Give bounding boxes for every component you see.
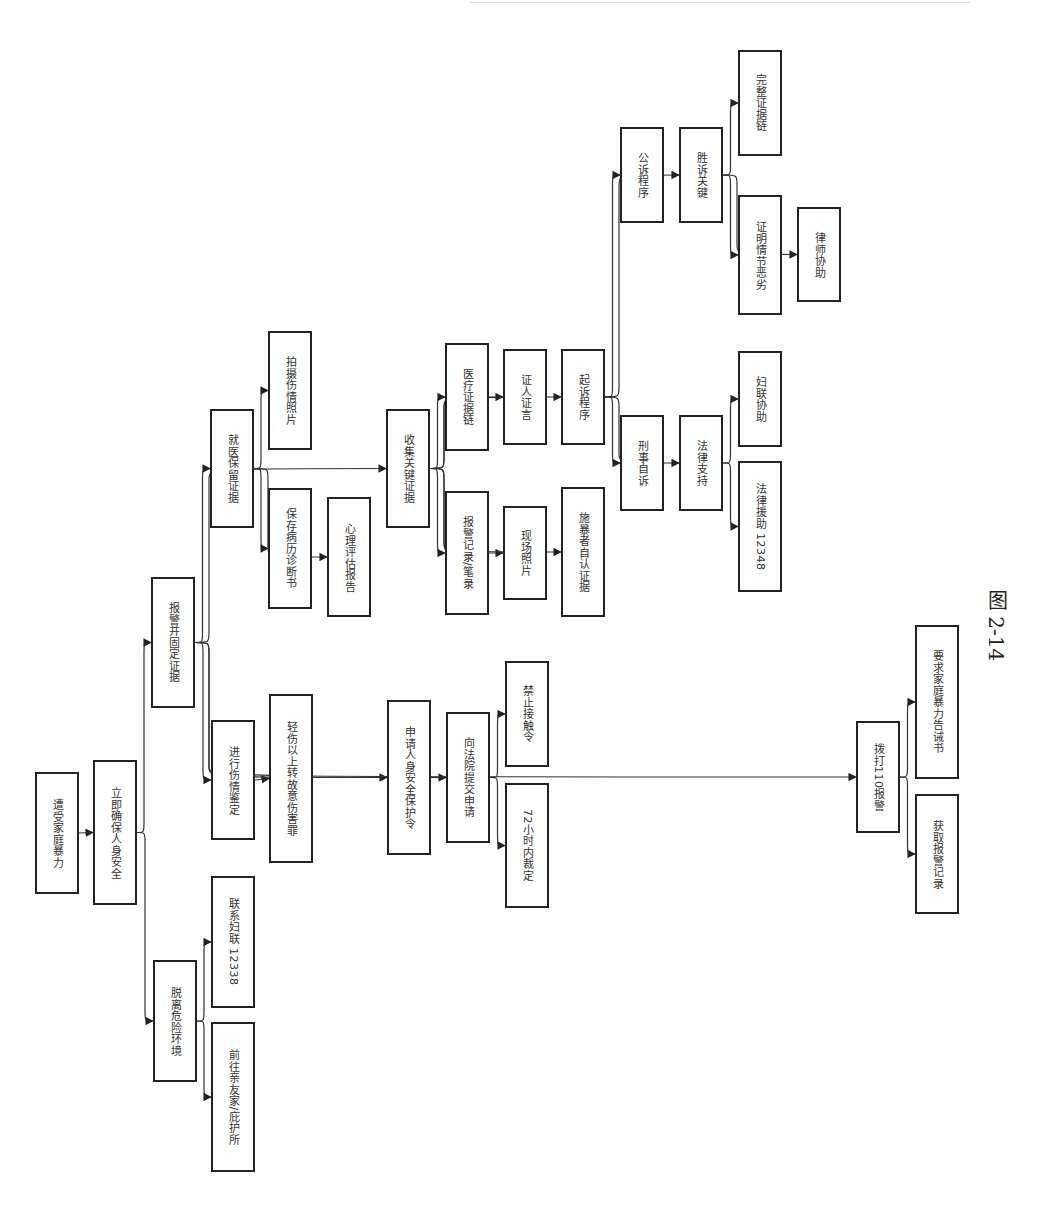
node-label: 拍摄伤情照片 <box>282 356 298 425</box>
node-label: 完整证据链 <box>752 74 768 132</box>
connector-arrow <box>490 714 505 778</box>
node-label: 心理评估报告 <box>341 523 357 592</box>
node-label: 前往亲友家/庇护所 <box>225 1049 241 1145</box>
flow-node: 律师协助 <box>797 207 841 302</box>
connector-arrow <box>723 103 738 175</box>
node-label: 施暴者自认证据 <box>575 512 591 593</box>
node-label: 申请人身安全保护令 <box>401 726 417 830</box>
connector-arrow <box>197 942 211 1021</box>
connector-arrow <box>430 469 445 554</box>
connector-arrow <box>255 779 269 781</box>
node-label: 拨打110报警 <box>870 743 886 812</box>
flow-node: 遭受家庭暴力 <box>35 772 79 894</box>
flow-node: 公诉程序 <box>620 127 664 223</box>
node-label: 收集关键证据 <box>400 434 416 503</box>
node-label: 胜诉关键 <box>693 152 709 198</box>
connector-arrow <box>605 397 620 463</box>
figure-caption: 图 2-14 <box>982 590 1011 661</box>
flow-node: 妇联协助 <box>738 351 782 447</box>
node-label: 立即确保人身安全 <box>107 787 123 879</box>
flow-node: 立即确保人身安全 <box>93 760 137 905</box>
node-label: 法律援助 12348 <box>752 483 768 571</box>
connector-arrow <box>723 175 738 255</box>
flow-node: 就医保留证据 <box>210 409 254 528</box>
flow-node: 收集关键证据 <box>386 409 430 528</box>
node-label: 遭受家庭暴力 <box>49 799 65 868</box>
node-label: 获取报警记录 <box>929 820 945 889</box>
flow-node: 完整证据链 <box>738 50 782 156</box>
flow-node: 轻伤以上转故意伤害罪 <box>269 694 313 863</box>
flow-node: 胜诉关键 <box>679 127 723 223</box>
connector-arrow <box>79 833 93 834</box>
connector-arrow <box>490 778 505 846</box>
node-label: 保存病历诊断书 <box>282 508 298 589</box>
node-label: 脱离危险环境 <box>167 987 183 1056</box>
node-label: 报警并固定证据 <box>165 602 181 683</box>
node-label: 证明情节恶劣 <box>752 221 768 290</box>
connector-arrow <box>254 391 268 469</box>
flow-node: 心理评估报告 <box>327 497 371 617</box>
flow-node: 刑事自诉 <box>620 415 664 511</box>
node-label: 法律支持 <box>693 440 709 486</box>
flow-node: 保存病历诊断书 <box>268 488 312 609</box>
flow-node: 获取报警记录 <box>915 794 959 914</box>
node-label: 起诉程序 <box>575 374 591 420</box>
flow-node: 联系妇联 12338 <box>211 876 255 1008</box>
flow-node: 前往亲友家/庇护所 <box>211 1022 255 1172</box>
flow-node: 向法院提交申请 <box>446 712 490 843</box>
flow-node: 脱离危险环境 <box>153 960 197 1082</box>
connector-arrow <box>900 702 915 777</box>
node-label: 医疗证据链 <box>459 368 475 426</box>
node-label: 报警记录/笔录 <box>459 516 475 589</box>
flow-node: 施暴者自认证据 <box>561 487 605 617</box>
node-label: 联系妇联 12338 <box>225 898 241 986</box>
flow-node: 证明情节恶劣 <box>738 195 782 315</box>
flow-node: 报警记录/笔录 <box>445 491 489 615</box>
flow-node: 起诉程序 <box>561 349 605 445</box>
flow-node: 证人证言 <box>503 349 547 445</box>
connector-arrow <box>137 833 153 1022</box>
node-label: 刑事自诉 <box>634 440 650 486</box>
flow-node: 进行伤情鉴定 <box>211 720 255 840</box>
flow-node: 医疗证据链 <box>445 343 489 451</box>
node-label: 要求家庭暴力告诫书 <box>929 650 945 754</box>
node-label: 就医保留证据 <box>224 434 240 503</box>
node-label: 现场照片 <box>517 530 533 576</box>
connector-arrow <box>723 463 738 527</box>
connector-arrow <box>723 399 738 463</box>
flow-node: 报警并固定证据 <box>151 577 195 708</box>
node-label: 向法院提交申请 <box>460 737 476 818</box>
connector-arrow <box>254 469 268 549</box>
node-label: 轻伤以上转故意伤害罪 <box>283 721 299 836</box>
flow-node: 法律支持 <box>679 415 723 511</box>
connector-arrow <box>195 469 210 643</box>
connector-arrow <box>430 397 445 469</box>
edge-group <box>79 103 915 1097</box>
node-label: 禁止接触令 <box>519 685 535 743</box>
node-label: 妇联协助 <box>752 376 768 422</box>
flow-node: 拨打110报警 <box>856 721 900 833</box>
connector-arrow <box>197 1021 211 1097</box>
connector-arrow <box>900 777 915 854</box>
flow-node: 现场照片 <box>503 506 547 600</box>
flow-node: 法律援助 12348 <box>738 461 782 592</box>
flow-node: 申请人身安全保护令 <box>387 700 431 855</box>
node-label: 公诉程序 <box>634 152 650 198</box>
connector-arrow <box>137 643 151 833</box>
node-label: 进行伤情鉴定 <box>225 746 241 815</box>
node-label: 律师协助 <box>811 232 827 278</box>
flow-node: 拍摄伤情照片 <box>268 331 312 450</box>
flow-node: 72小时内裁定 <box>505 783 549 908</box>
flow-node: 禁止接触令 <box>505 661 549 767</box>
node-label: 72小时内裁定 <box>519 809 535 882</box>
flow-node: 要求家庭暴力告诫书 <box>915 625 959 779</box>
connector-arrow <box>605 175 620 397</box>
node-label: 证人证言 <box>517 374 533 420</box>
